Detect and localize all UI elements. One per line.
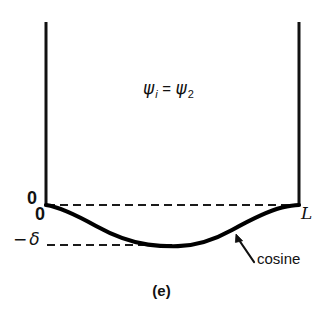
- psi-symbol-second: ψ: [175, 78, 187, 98]
- x-axis-length-label: L: [301, 205, 312, 222]
- psi-symbol-first: ψ: [143, 78, 155, 98]
- cosine-curve: [46, 205, 299, 246]
- figure-panel-e: ψi=ψ2 0 0 −δ L cosine (e): [0, 0, 323, 310]
- wavefunction-label: ψi=ψ2: [143, 80, 194, 100]
- cosine-annotation-label: cosine: [257, 251, 300, 266]
- minus-sign: −: [13, 229, 27, 249]
- cosine-pointer-arrow: [235, 234, 254, 262]
- x-axis-origin-label: 0: [35, 205, 45, 223]
- neg-delta-axis-label: −δ: [13, 231, 40, 248]
- figure-caption: (e): [0, 283, 323, 298]
- psi-subscript-2: 2: [187, 88, 194, 100]
- delta-symbol: δ: [27, 229, 39, 249]
- equals-sign: =: [158, 80, 175, 97]
